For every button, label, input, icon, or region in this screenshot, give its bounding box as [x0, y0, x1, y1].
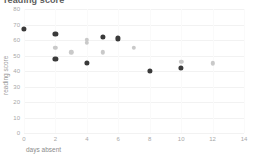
data-point — [85, 41, 89, 45]
x-tick-label: 10 — [178, 136, 185, 142]
x-gridline — [213, 9, 214, 133]
x-tick-label: 4 — [85, 136, 88, 142]
data-point — [84, 61, 89, 66]
x-tick-label: 2 — [54, 136, 57, 142]
data-point — [179, 59, 183, 63]
y-gridline — [24, 87, 244, 88]
y-tick-label: 20 — [13, 99, 20, 105]
y-tick-label: 60 — [13, 37, 20, 43]
y-tick-label: 80 — [13, 6, 20, 12]
data-point — [100, 34, 105, 39]
x-gridline — [55, 9, 56, 133]
data-point — [53, 56, 58, 61]
data-point — [179, 65, 184, 70]
y-tick-label: 10 — [13, 115, 20, 121]
data-point — [210, 61, 214, 65]
y-gridline — [24, 25, 244, 26]
x-tick-label: 8 — [148, 136, 151, 142]
y-gridline — [24, 102, 244, 103]
x-tick-label: 14 — [241, 136, 248, 142]
x-tick-label: 12 — [209, 136, 216, 142]
data-point — [53, 31, 58, 36]
data-point — [100, 50, 104, 54]
y-gridline — [24, 40, 244, 41]
x-tick-label: 6 — [117, 136, 120, 142]
y-gridline — [24, 118, 244, 119]
y-tick-label: 30 — [13, 84, 20, 90]
y-tick-label: 70 — [13, 22, 20, 28]
data-point — [21, 27, 26, 32]
data-point — [69, 50, 73, 54]
x-gridline — [87, 9, 88, 133]
y-gridline — [24, 9, 244, 10]
scatter-chart: reading score 01020304050607080024681012… — [0, 0, 254, 162]
x-axis-label: days absent — [26, 146, 61, 153]
x-gridline — [118, 9, 119, 133]
data-point — [132, 46, 136, 50]
y-gridline — [24, 133, 244, 134]
y-gridline — [24, 71, 244, 72]
chart-title: reading score — [4, 0, 64, 5]
data-point — [53, 46, 57, 50]
plot-area: 0102030405060708002468101214 — [24, 9, 244, 133]
y-tick-label: 0 — [17, 130, 20, 136]
x-gridline — [244, 9, 245, 133]
x-tick-label: 0 — [22, 136, 25, 142]
y-tick-label: 40 — [13, 68, 20, 74]
data-point — [147, 68, 152, 73]
x-gridline — [181, 9, 182, 133]
y-tick-label: 50 — [13, 53, 20, 59]
y-axis-label: reading score — [2, 56, 9, 95]
